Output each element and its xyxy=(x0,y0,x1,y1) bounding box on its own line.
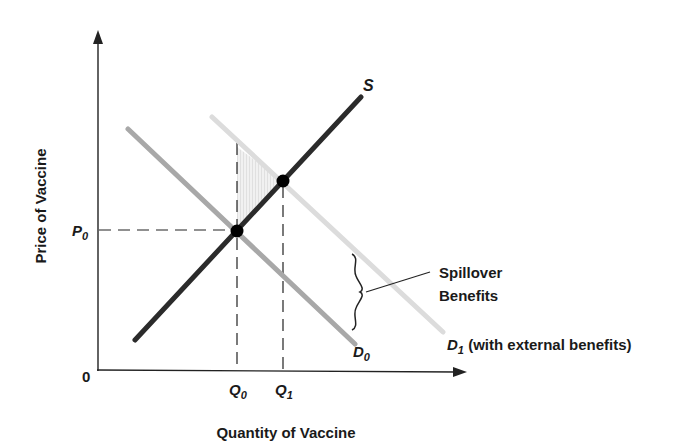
vaccine-externality-chart: S D0 D1 (with external benefits) Spillov… xyxy=(0,0,691,444)
origin-label: 0 xyxy=(82,368,90,385)
x-axis-title: Quantity of Vaccine xyxy=(216,424,355,441)
spillover-label-line2: Benefits xyxy=(439,287,498,304)
brace-icon xyxy=(352,254,362,330)
x-axis-arrow-icon xyxy=(453,367,467,377)
d1-curve xyxy=(212,117,443,332)
y-axis-arrow-icon xyxy=(93,30,103,44)
supply-label: S xyxy=(363,77,374,94)
y-axis-title: Price of Vaccine xyxy=(32,148,49,263)
q1-label: Q1 xyxy=(275,381,293,401)
p0-label: P0 xyxy=(72,222,89,242)
equilibrium-e0 xyxy=(231,225,244,238)
spillover-label-line1: Spillover xyxy=(439,264,503,281)
supply-curve xyxy=(135,97,361,340)
d1-label: D1 (with external benefits) xyxy=(447,336,632,356)
q0-label: Q0 xyxy=(229,381,248,401)
d0-label: D0 xyxy=(353,343,371,363)
x-axis xyxy=(97,370,457,372)
equilibrium-e1 xyxy=(277,175,290,188)
